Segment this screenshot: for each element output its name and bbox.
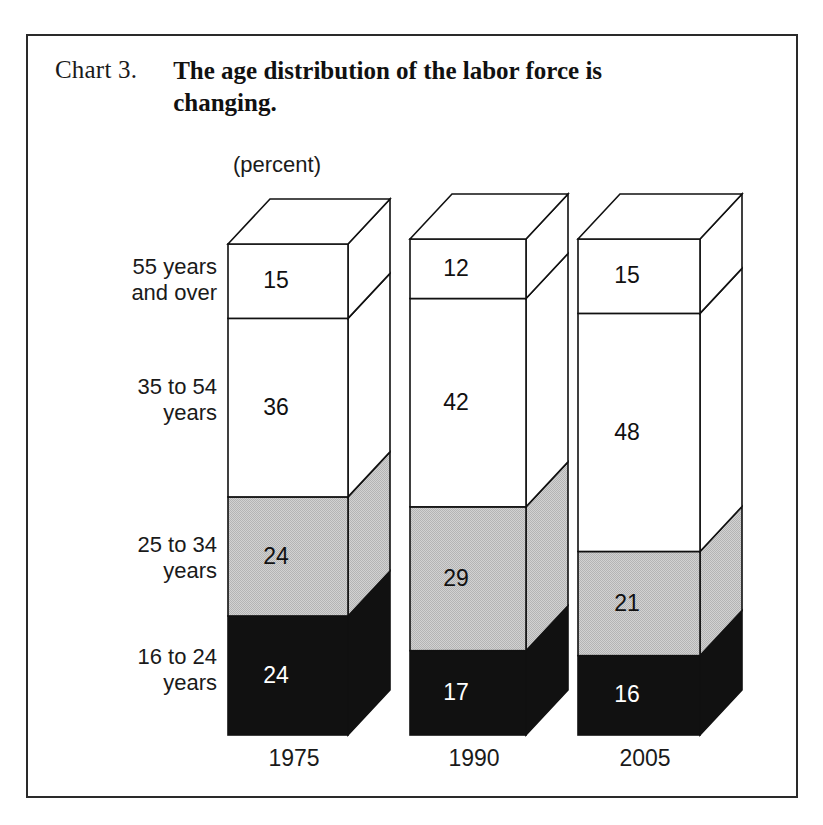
chart-header: Chart 3. The age distribution of the lab… (55, 55, 695, 118)
category-label-line-2: years (52, 400, 217, 426)
category-label-line-2: years (52, 670, 217, 696)
chart-title-line-1: The age distribution of the labor force … (173, 55, 602, 87)
category-label-line-1: 16 to 24 (52, 644, 217, 670)
category-label-16-to-24: 16 to 24 years (52, 644, 217, 695)
category-label-35-to-54: 35 to 54 years (52, 374, 217, 425)
category-label-line-2: and over (52, 280, 217, 306)
category-label-line-1: 35 to 54 (52, 374, 217, 400)
category-label-line-1: 55 years (52, 254, 217, 280)
chart-page: Chart 3. The age distribution of the lab… (0, 0, 823, 825)
page-title: The age distribution of the labor force … (173, 55, 602, 118)
category-label-25-to-34: 25 to 34 years (52, 532, 217, 583)
category-label-line-1: 25 to 34 (52, 532, 217, 558)
axis-unit-label: (percent) (233, 152, 321, 178)
category-label-55-and-over: 55 years and over (52, 254, 217, 305)
chart-title-line-2: changing. (173, 87, 602, 119)
category-label-line-2: years (52, 558, 217, 584)
chart-number-label: Chart 3. (55, 55, 137, 84)
